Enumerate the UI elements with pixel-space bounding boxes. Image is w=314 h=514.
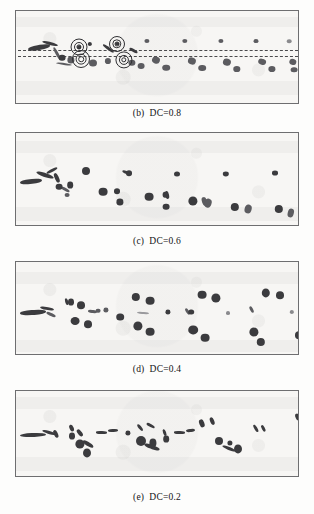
vortex-core: [163, 436, 169, 443]
vortex-core: [249, 328, 258, 337]
vortex-filament: [46, 311, 56, 318]
panel-c-image: [15, 132, 299, 226]
vortex-core: [82, 167, 90, 175]
paper-texture: [16, 391, 298, 476]
vortex-core: [88, 42, 92, 46]
vortex-core: [211, 294, 220, 303]
vortex-core: [218, 39, 223, 43]
panel-d-image: [15, 261, 299, 355]
panel-b-image: [15, 10, 299, 104]
vortex-core: [198, 65, 206, 71]
vortex-core: [188, 325, 198, 334]
vortex-filament: [186, 429, 195, 433]
vortex-core: [149, 439, 156, 448]
panel-c-caption: (c) DC=0.6: [0, 236, 314, 246]
vortex-filament: [208, 417, 215, 426]
vortex-core: [231, 203, 239, 211]
vortex-core: [145, 193, 154, 201]
background-band: [16, 141, 298, 153]
vortex-filament: [146, 422, 156, 429]
vortex-core: [151, 55, 161, 64]
vortex-core: [188, 309, 194, 314]
vortex-filament: [137, 312, 149, 315]
vortex-core: [96, 309, 101, 313]
vortex-core: [162, 65, 170, 71]
vortex-filament: [261, 425, 267, 432]
vortex-core: [114, 188, 120, 194]
vortex-core: [146, 328, 155, 336]
vortex-ring-annotation: [78, 56, 84, 62]
panel-b-caption: (b) DC=0.8: [0, 108, 314, 118]
vortex-filament: [294, 413, 299, 421]
vortex-core: [174, 171, 180, 176]
vortex-core: [254, 39, 259, 43]
vortex-core: [146, 297, 155, 305]
vortex-filament: [108, 429, 118, 432]
vortex-core: [287, 39, 292, 43]
vortex-filament: [174, 431, 185, 434]
vortex-core: [132, 293, 140, 301]
vortex-core: [222, 58, 232, 67]
vortex-core: [136, 436, 146, 446]
vortex-core: [291, 67, 298, 72]
vortex-ring-annotation: [115, 42, 120, 47]
vortex-core: [198, 291, 207, 299]
vortex-core: [187, 56, 197, 65]
vortex-core: [125, 431, 130, 436]
background-band: [16, 340, 298, 352]
background-band: [16, 457, 298, 471]
vortex-core: [268, 66, 275, 72]
vortex-core: [182, 39, 187, 43]
vortex-core: [83, 448, 91, 457]
vortex-core: [133, 322, 142, 331]
vortex-core: [163, 192, 168, 198]
vortex-core: [233, 66, 240, 72]
background-band: [16, 397, 298, 409]
vortex-filament: [76, 429, 84, 438]
vortex-core: [203, 198, 212, 208]
vortex-core: [69, 433, 75, 440]
vortex-core: [59, 55, 66, 61]
background-band: [16, 207, 298, 221]
panel-e-image: [15, 390, 299, 477]
vortex-filament: [253, 424, 259, 432]
vortex-core: [226, 311, 230, 315]
vortex-filament: [20, 309, 46, 315]
vortex-core: [116, 313, 124, 320]
vortex-core: [126, 170, 132, 176]
vortex-filament: [53, 172, 60, 183]
vortex-core: [276, 291, 284, 299]
vortex-filament: [20, 178, 42, 185]
background-band: [16, 17, 298, 27]
vortex-core: [67, 182, 73, 189]
vortex-core: [105, 58, 111, 64]
vortex-core: [75, 440, 84, 449]
vortex-core: [163, 204, 170, 210]
vortex-core: [84, 320, 92, 328]
vortex-core: [68, 299, 74, 306]
vortex-core: [243, 204, 252, 215]
background-band: [16, 81, 298, 95]
vortex-core: [103, 308, 108, 313]
vortex-core: [116, 199, 123, 206]
vortex-core: [77, 301, 85, 309]
vortex-filament: [129, 47, 138, 54]
centerline-dashed-1: [18, 50, 298, 51]
vortex-filament: [68, 424, 75, 432]
vortex-core: [290, 310, 294, 314]
vortex-filament: [248, 306, 254, 314]
vortex-core: [257, 338, 265, 346]
panel-d-caption: (d) DC=0.4: [0, 364, 314, 374]
vortex-core: [262, 288, 270, 297]
vortex-filament: [198, 419, 205, 428]
background-band: [16, 272, 298, 284]
vortex-core: [99, 188, 108, 196]
vortex-core: [289, 58, 298, 66]
vortex-core: [188, 197, 197, 206]
vortex-core: [65, 193, 70, 197]
paper-texture: [16, 262, 298, 354]
vortex-core: [201, 334, 210, 342]
vortex-core: [275, 205, 283, 213]
vortex-core: [215, 437, 223, 445]
vortex-core: [295, 331, 299, 339]
